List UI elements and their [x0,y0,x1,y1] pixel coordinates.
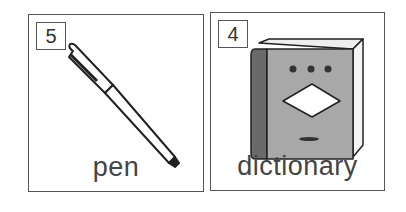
card-word: pen [29,152,203,183]
card-dictionary[interactable]: 4 dictionary [210,12,385,191]
card-pen[interactable]: 5 pen [28,14,204,192]
card-word: dictionary [211,151,384,182]
